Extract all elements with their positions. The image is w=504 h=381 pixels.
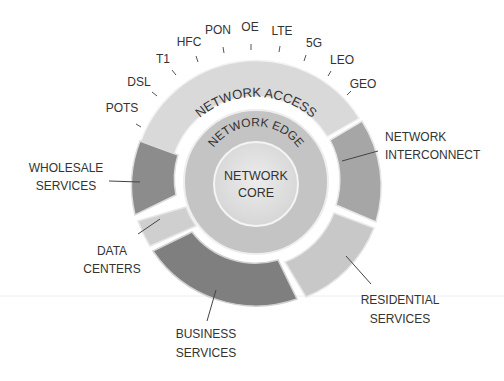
tech-hfc: HFC (177, 35, 202, 49)
label-interconnect-1: NETWORK (385, 130, 446, 144)
tech-5g: 5G (306, 36, 322, 50)
label-residential-2: SERVICES (370, 312, 430, 326)
network-core[interactable] (214, 142, 298, 226)
network-core-label-2: CORE (238, 186, 274, 200)
label-business-2: SERVICES (176, 346, 236, 360)
tech-pots: POTS (106, 101, 139, 115)
label-wholesale-1: WHOLESALE (29, 161, 104, 175)
label-residential-1: RESIDENTIAL (361, 293, 440, 307)
tech-lte: LTE (271, 24, 292, 38)
tech-pon: PON (205, 23, 231, 37)
segment-wholesale-services[interactable] (132, 141, 178, 215)
label-datacenters-1: DATA (97, 244, 127, 258)
tech-geo: GEO (350, 77, 377, 91)
label-datacenters-2: CENTERS (83, 262, 140, 276)
label-business-1: BUSINESS (176, 327, 237, 341)
tech-leo: LEO (330, 53, 354, 67)
tech-oe: OE (241, 20, 258, 34)
network-core-label-1: NETWORK (224, 169, 289, 183)
segment-network-interconnect[interactable] (330, 121, 381, 222)
tech-dsl: DSL (127, 75, 151, 89)
label-interconnect-2: INTERCONNECT (385, 148, 481, 162)
network-diagram: NETWORK ACCESS NETWORK EDGE NETWORK CORE… (0, 0, 504, 381)
label-wholesale-2: SERVICES (36, 179, 96, 193)
tech-t1: T1 (156, 52, 170, 66)
